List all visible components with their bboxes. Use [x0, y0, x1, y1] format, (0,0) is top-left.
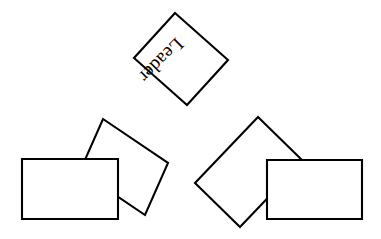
rectangles-diagram: Leader: [0, 0, 381, 239]
right-upright-rectangle: [267, 160, 362, 219]
left-upright-rectangle: [22, 159, 118, 219]
diagram-canvas: Leader: [0, 0, 381, 239]
